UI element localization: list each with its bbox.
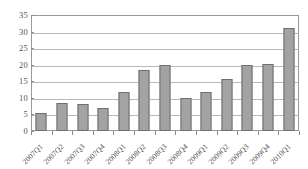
x-axis-labels: 2007Q12007Q22007Q32007Q42008Q12008Q22008… (31, 131, 299, 169)
y-axis-tick-label: 20 (6, 61, 28, 70)
bar-slot (278, 15, 299, 131)
x-axis-tick-label: 2009Q4 (248, 143, 271, 166)
x-axis-tick-label: 2010Q1 (269, 143, 292, 166)
bar (242, 65, 253, 131)
bar-slot (217, 15, 238, 131)
x-axis-tick-label: 2008Q1 (104, 143, 127, 166)
x-axis-tick-label: 2009Q3 (228, 143, 251, 166)
bar (118, 92, 129, 131)
y-axis-tick-label: 25 (6, 44, 28, 53)
bar-slot (237, 15, 258, 131)
y-axis-tick-label: 5 (6, 110, 28, 119)
bar (77, 104, 88, 132)
bar (283, 28, 294, 131)
bar-slot (31, 15, 52, 131)
x-axis-tick-label: 2009Q2 (207, 143, 230, 166)
bar (159, 65, 170, 131)
bar (180, 98, 191, 131)
bar-chart: 05101520253035 2007Q12007Q22007Q32007Q42… (0, 0, 308, 169)
x-axis-tick-label: 2007Q4 (83, 143, 106, 166)
x-axis-tick-label: 2008Q4 (166, 143, 189, 166)
bar (263, 64, 274, 131)
bar-slot (72, 15, 93, 131)
x-axis-tick-label: 2007Q3 (63, 143, 86, 166)
bar-slot (175, 15, 196, 131)
bar-slot (134, 15, 155, 131)
bar (36, 113, 47, 131)
y-axis: 05101520253035 (3, 0, 28, 169)
bar-slot (196, 15, 217, 131)
bar-slot (113, 15, 134, 131)
bar-slot (258, 15, 279, 131)
x-axis-tick-label: 2008Q2 (125, 143, 148, 166)
bar (139, 70, 150, 131)
bar (221, 79, 232, 131)
y-axis-tick-label: 0 (6, 127, 28, 136)
bar (98, 108, 109, 131)
bars-container (31, 15, 299, 131)
x-axis-tick-mark (299, 131, 300, 135)
bar (56, 103, 67, 132)
x-axis-tick-label: 2008Q3 (145, 143, 168, 166)
y-axis-tick-label: 35 (6, 11, 28, 20)
y-axis-tick-label: 10 (6, 94, 28, 103)
bar-slot (52, 15, 73, 131)
x-axis-tick-label: 2009Q1 (186, 143, 209, 166)
bar-slot (155, 15, 176, 131)
bar-slot (93, 15, 114, 131)
y-axis-tick-label: 30 (6, 28, 28, 37)
y-axis-tick-label: 15 (6, 77, 28, 86)
bar (201, 92, 212, 131)
x-axis-tick-label: 2007Q2 (42, 143, 65, 166)
